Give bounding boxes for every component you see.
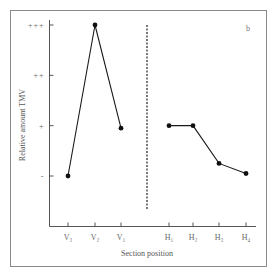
y-tick-label: ++ (33, 71, 44, 80)
x-ticks: V₃V₂V₁H₁H₂H₃H₄ (64, 223, 251, 242)
y-tick-label: +++ (28, 21, 45, 30)
x-tick-label: V₂ (91, 233, 100, 242)
series-line-h (169, 126, 246, 174)
data-point-v3 (66, 174, 71, 179)
x-tick-label: H₃ (215, 233, 224, 242)
data-point-v2 (93, 23, 98, 28)
x-tick-label: H₁ (165, 233, 174, 242)
data-point-h3 (217, 161, 222, 166)
tmv-chart: b -++++++ V₃V₂V₁H₁H₂H₃H₄ Relative amount… (0, 0, 275, 276)
y-tick-label: + (39, 122, 45, 131)
figure-frame (11, 11, 267, 267)
data-point-h4 (244, 171, 249, 176)
y-tick-label: - (41, 172, 45, 181)
x-tick-label: H₂ (189, 233, 198, 242)
data-point-h1 (167, 123, 172, 128)
y-axis-title: Relative amount TMV (18, 89, 27, 162)
series-line-v (68, 25, 121, 176)
x-tick-label: H₄ (242, 233, 251, 242)
x-axis-title: Section position (121, 249, 173, 258)
data-point-h2 (191, 123, 196, 128)
data-point-v1 (119, 126, 124, 131)
panel-label: b (246, 24, 250, 33)
x-tick-label: V₃ (64, 233, 73, 242)
x-tick-label: V₁ (117, 233, 126, 242)
series-group (66, 23, 249, 179)
